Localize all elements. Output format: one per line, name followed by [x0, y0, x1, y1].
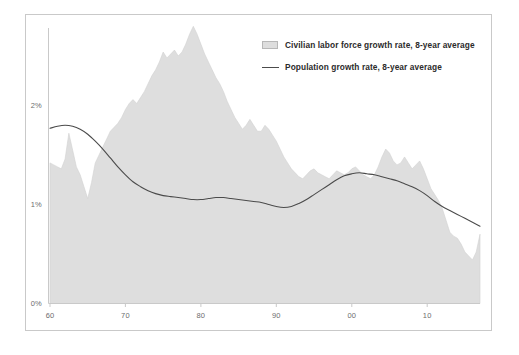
legend-item-population-growth: Population growth rate, 8-year average	[262, 56, 484, 78]
legend-item-civilian-labor-force: Civilian labor force growth rate, 8-year…	[262, 34, 484, 56]
line-swatch-icon	[262, 67, 279, 68]
x-axis-ticks	[50, 304, 427, 308]
chart-legend: Civilian labor force growth rate, 8-year…	[262, 34, 484, 78]
chart-figure: 2% 1% 0% 60 70 80 90 00 10 Civilian labo…	[0, 0, 519, 355]
legend-label-population-growth: Population growth rate, 8-year average	[285, 62, 442, 72]
area-swatch-icon	[262, 41, 278, 49]
legend-label-civilian-labor-force: Civilian labor force growth rate, 8-year…	[285, 40, 475, 50]
